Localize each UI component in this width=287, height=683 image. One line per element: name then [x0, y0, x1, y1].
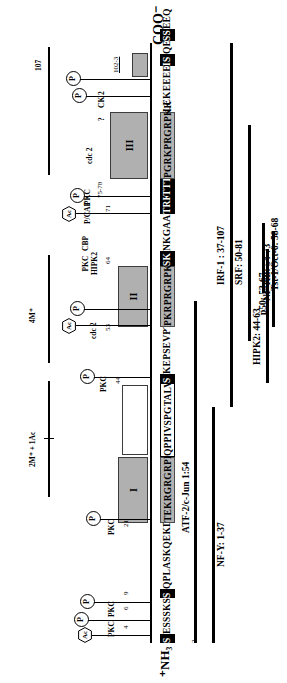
sequence-segment-5: TEKRGRGRPRK: [160, 457, 175, 523]
residue-number-44: 44: [114, 377, 122, 384]
sequence-segment-6: QPPIVSPGTALVG: [160, 383, 175, 457]
residue-number-64: 64: [104, 257, 112, 264]
sequence-segment-11: NKGAAK: [160, 214, 175, 251]
sequence-segment-14: PGRKPRGRPKK: [160, 112, 175, 179]
leader-line-res64p: [84, 309, 150, 310]
sequence-segment-1: S: [160, 634, 175, 643]
residue-number-21: 21: [122, 520, 130, 527]
interaction-label-nfy: NF-Y: 1-37: [216, 522, 226, 567]
sequence-segment-7: S: [160, 374, 175, 383]
sequence-segment-9: PKRPRGRPKG: [160, 266, 175, 327]
interaction-bar-irf1: [230, 43, 233, 407]
leader-line-res75p: [84, 196, 150, 197]
n-terminus-label: ⁺NH₃: [157, 647, 173, 677]
acetyl-badge-res71: Ac: [62, 206, 76, 222]
sequence-segment-12: TRK: [160, 196, 175, 214]
enzyme-callout-pkc-4: PKC: [108, 621, 117, 637]
phospho-badge-res4: P: [74, 612, 89, 627]
sequence-segment-15: LEKEEEEG: [160, 66, 175, 112]
domain-spacer-open-box: [122, 385, 148, 455]
leader-line-res6: [94, 602, 150, 603]
phospho-badge-res65: P: [70, 301, 85, 316]
enzyme-callout-pkc-21: PKC: [108, 519, 117, 535]
interaction-bar-tst1-oct6: [262, 223, 265, 293]
sequence-segment-17: QE: [160, 41, 175, 54]
interaction-bar-atf2-cjun: [194, 301, 197, 643]
residue-107-label: 107: [34, 60, 43, 71]
enzyme-callout-ck2-102: CK 2: [98, 91, 107, 108]
residue-number-71: 71: [104, 205, 112, 212]
figure-rotated-canvas: ⁺NH₃ COO⁻ 107 S ESSSKS S QPLASKQEKDG TEK…: [0, 0, 287, 683]
leader-line-res2: [92, 635, 150, 636]
interaction-label-hipk2: HIPK2: 44-63: [252, 308, 262, 365]
sequence-segment-8: KEPSEVPT: [160, 327, 175, 374]
interaction-bar-nfkb: [248, 189, 251, 321]
enzyme-callout-pkc-75: PKC: [84, 189, 93, 205]
methylation-span-label-2: 4M⁺: [28, 308, 37, 323]
phospho-badge-res21: P: [86, 511, 101, 526]
at-hook-domain-III: III: [110, 112, 148, 179]
leader-line-res102: [86, 96, 150, 97]
interaction-label-atf2-cjun: ATF-2/c-Jun 1:54: [181, 462, 191, 533]
at-hook-domain-I: I: [118, 457, 148, 523]
protein-backbone-line: [150, 43, 152, 643]
protein-domain-figure: ⁺NH₃ COO⁻ 107 S ESSSKS S QPLASKQEKDG TEK…: [0, 0, 287, 683]
enzyme-callout-pkc-44: PKC: [100, 376, 109, 392]
acetyl-badge-res64: Ac: [62, 318, 76, 334]
interaction-label-irf1: IRF-1 : 37-107: [216, 226, 226, 285]
residue-number-9: 9: [122, 592, 130, 596]
interaction-bar-nfy: [212, 407, 215, 643]
phospho-badge-res44: P: [80, 369, 95, 384]
phospho-badge-res6: P: [80, 594, 95, 609]
sequence-segment-18: SS: [160, 29, 175, 41]
sequence-segment-3: S: [160, 589, 175, 598]
at-hook-domain-II: II: [118, 266, 148, 327]
leader-line-res103: [80, 79, 150, 80]
leader-line-res4: [88, 620, 150, 621]
methylation-span-label-1: 2M⁺ + 1Ac: [28, 432, 37, 467]
enzyme-callout-pcaf-71: P/CAF: [84, 202, 93, 224]
sequence-segment-13: TTT: [160, 179, 175, 196]
enzyme-callout-cbp-64: CBP: [82, 236, 91, 251]
residue-number-4: 4: [122, 626, 130, 630]
acetyl-badge-res2: Ac: [78, 627, 92, 643]
enzyme-callout-pkc-hipk2-64: PKC HIPK2: [82, 252, 99, 275]
methylation-span-line-1: [48, 381, 50, 497]
methylation-span-line-2: [48, 255, 50, 363]
methylation-span-tick-1: [44, 438, 54, 439]
sequence-segment-16: IS: [160, 54, 175, 66]
enzyme-callout-unknown: ?: [98, 117, 107, 121]
interaction-label-srf: SRF: 50-81: [234, 239, 244, 285]
residue-number-102-3: 102-3: [112, 57, 120, 73]
phospho-badge-res102: P: [72, 88, 87, 103]
enzyme-callout-cdc2-53: cdc 2: [90, 323, 99, 339]
interaction-label-tst1-oct6: Tst-1/Oct-6: 58-68: [270, 218, 280, 291]
sequence-segment-19: EEQ: [160, 10, 175, 29]
residue-107-span-line: [48, 47, 50, 175]
leader-line-res64ac: [76, 325, 150, 326]
sequence-segment-10: SK: [160, 251, 175, 266]
enzyme-callout-cdc2-78: cdc 2: [86, 148, 95, 164]
c-terminal-acidic-block: [132, 53, 148, 77]
enzyme-callout-pkc-6: PKC: [108, 601, 117, 617]
residue-number-6: 6: [122, 607, 130, 611]
sequence-segment-2: ESSSKS: [160, 598, 175, 634]
phospho-badge-res103: P: [66, 71, 81, 86]
sequence-segment-4: QPLASKQEKDG: [160, 523, 175, 589]
